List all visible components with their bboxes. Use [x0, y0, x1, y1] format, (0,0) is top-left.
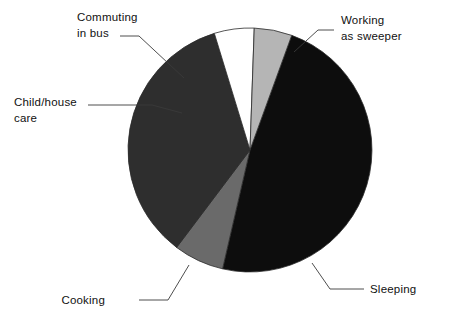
pie-slices-group	[128, 28, 372, 272]
label-working-as-sweeper-line2: as sweeper	[341, 30, 402, 42]
pie-chart-figure: Commuting in bus Child/house care Workin…	[0, 0, 449, 322]
label-sleeping: Sleeping	[370, 283, 416, 295]
label-cooking: Cooking	[61, 294, 105, 306]
label-commuting-in-bus-line1: Commuting	[77, 11, 138, 23]
label-commuting-in-bus-line2: in bus	[77, 27, 109, 39]
label-working-as-sweeper-line1: Working	[341, 14, 384, 26]
pie-chart-canvas: Commuting in bus Child/house care Workin…	[0, 0, 449, 322]
label-child-house-care-line1: Child/house	[14, 96, 77, 108]
label-child-house-care-line2: care	[14, 112, 37, 124]
